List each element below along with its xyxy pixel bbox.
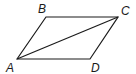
vertex-label-b: B [38, 2, 46, 16]
vertex-label-c: C [121, 4, 130, 18]
vertex-label-d: D [91, 61, 100, 74]
vertex-label-a: A [5, 61, 14, 74]
parallelogram-diagram: B C A D [0, 0, 136, 74]
